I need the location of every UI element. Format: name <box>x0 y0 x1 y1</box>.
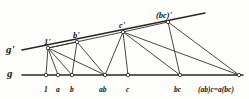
seg-cprime-abc <box>123 32 239 75</box>
node-pab <box>103 73 106 76</box>
point-label-pab: ab <box>99 86 107 94</box>
point-label-pbc: bc <box>174 86 181 94</box>
node-pb <box>70 73 73 76</box>
seg-cprime-bcprime <box>123 22 168 32</box>
seg-bprime-ab <box>77 42 105 75</box>
point-label-pc: c <box>126 86 129 94</box>
node-layer <box>44 20 240 76</box>
node-p1 <box>44 73 47 76</box>
point-label-pabc: (ab)c=a(bc) <box>198 86 234 94</box>
point-label-qbc: (bc)' <box>156 11 172 20</box>
point-label-p1: 1 <box>44 86 48 94</box>
point-label-qb: b' <box>73 31 80 40</box>
node-pbc <box>178 73 181 76</box>
node-pa <box>56 73 59 76</box>
seg-bprime-b <box>72 42 77 75</box>
point-label-pb: b <box>70 86 74 94</box>
seg-bcprime-abc <box>168 22 239 75</box>
seg-1prime-b <box>48 48 72 75</box>
point-label-q1: 1' <box>44 38 51 47</box>
point-label-qc: c' <box>119 21 125 30</box>
axis-layer <box>22 13 243 75</box>
node-pabc <box>237 73 240 76</box>
node-qc <box>121 30 124 33</box>
seg-cprime-ab <box>105 32 123 75</box>
seg-1prime-1 <box>46 48 48 75</box>
axis-label-g-prime: g' <box>6 44 15 55</box>
seg-cprime-c <box>123 32 128 75</box>
axis-label-g: g <box>7 68 13 79</box>
seg-1prime-cprime <box>48 32 123 48</box>
node-pc <box>126 73 129 76</box>
node-qbc <box>166 20 169 23</box>
node-qb <box>75 40 78 43</box>
point-label-pa: a <box>56 86 60 94</box>
